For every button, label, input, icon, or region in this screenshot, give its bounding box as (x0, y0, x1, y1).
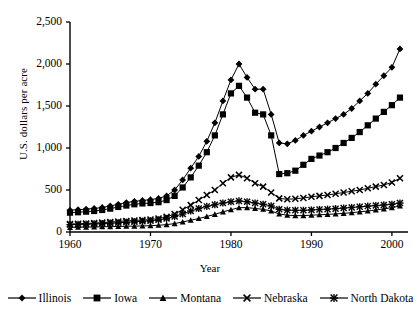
legend-label: Montana (180, 293, 221, 304)
filled-square-icon (82, 292, 112, 304)
y-tick-label: 2,000 (18, 58, 62, 69)
legend-label: Iowa (114, 293, 137, 304)
x-tick-label: 1960 (40, 239, 100, 250)
x-axis-label: Year (0, 262, 420, 274)
y-tick-label: 1,500 (18, 100, 62, 111)
legend-label: Nebraska (264, 293, 307, 304)
chart-legend: IllinoisIowaMontanaNebraskaNorth Dakota (0, 292, 420, 304)
legend-item-illinois: Illinois (7, 292, 72, 304)
x-cross-icon (232, 292, 262, 304)
asterisk-icon (319, 292, 349, 304)
series-nebraska (67, 172, 403, 227)
legend-item-montana: Montana (148, 292, 221, 304)
y-tick-label: 0 (18, 226, 62, 237)
y-tick-label: 1,000 (18, 142, 62, 153)
legend-label: North Dakota (351, 293, 414, 304)
series-illinois (67, 45, 404, 213)
chart-plot-area (0, 0, 420, 323)
x-tick-label: 1990 (281, 239, 341, 250)
y-tick-label: 500 (18, 184, 62, 195)
chart-series-layer (66, 45, 403, 229)
legend-item-north-dakota: North Dakota (319, 292, 414, 304)
legend-item-nebraska: Nebraska (232, 292, 307, 304)
x-tick-label: 2000 (362, 239, 420, 250)
legend-label: Illinois (39, 293, 72, 304)
x-tick-label: 1970 (120, 239, 180, 250)
chart-figure: U.S. dollars per acre Year 05001,0001,50… (0, 0, 420, 323)
x-tick-label: 1980 (201, 239, 261, 250)
filled-diamond-icon (7, 292, 37, 304)
y-tick-label: 2,500 (18, 16, 62, 27)
series-iowa (67, 83, 403, 216)
legend-item-iowa: Iowa (82, 292, 137, 304)
filled-triangle-icon (148, 292, 178, 304)
